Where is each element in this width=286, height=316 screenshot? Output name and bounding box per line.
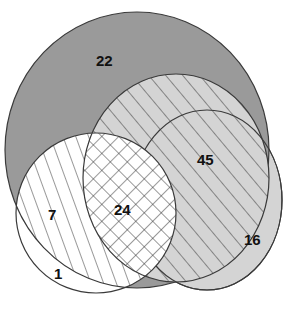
region-label-16: 16 <box>244 231 261 248</box>
region-label-1: 1 <box>54 265 62 282</box>
venn-diagram: 22 45 24 7 16 1 <box>0 0 286 316</box>
region-label-24: 24 <box>114 201 131 218</box>
region-label-22: 22 <box>96 52 113 69</box>
region-label-7: 7 <box>48 206 56 223</box>
region-label-45: 45 <box>197 151 214 168</box>
